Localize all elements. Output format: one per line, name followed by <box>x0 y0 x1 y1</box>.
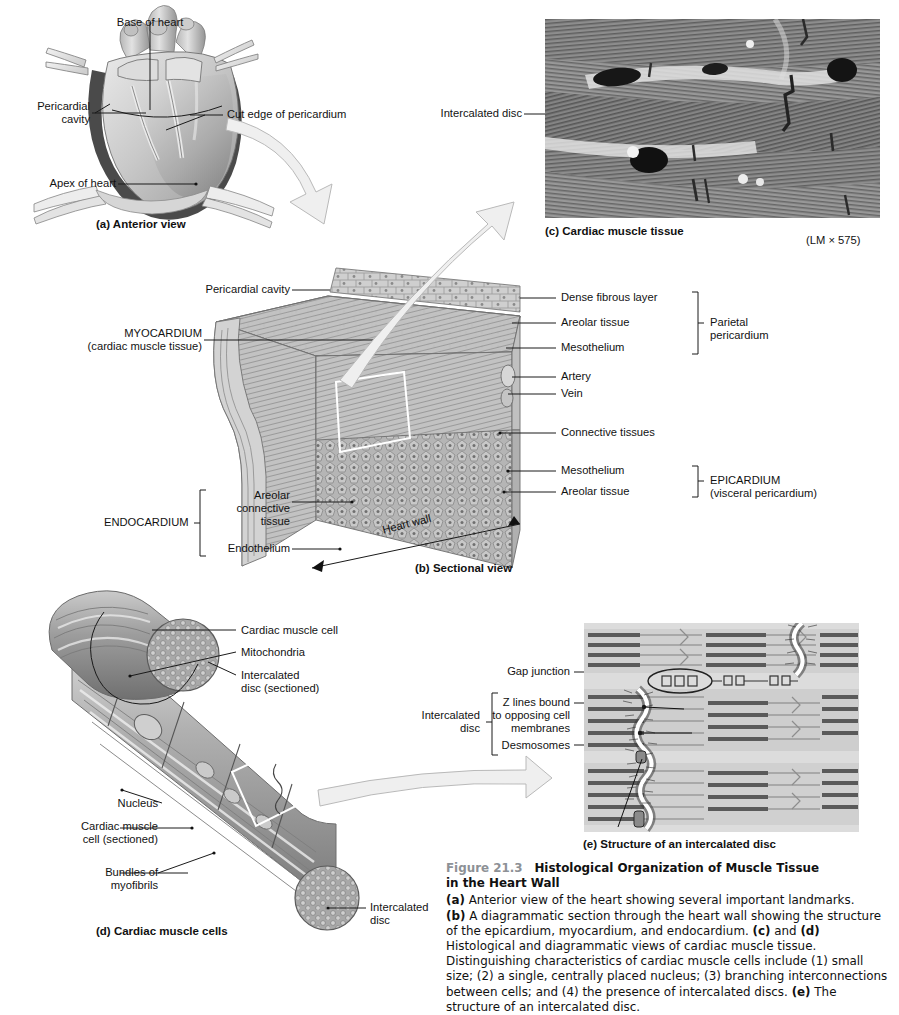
label-endocardium: ENDOCARDIUM <box>104 516 188 529</box>
label-parietal-pericardium: Parietal pericardium <box>710 316 768 342</box>
label-bundles-of-myofibrils: Bundles of myofibrils <box>18 866 158 892</box>
panel-c-magnification: (LM × 575) <box>806 234 860 247</box>
caption-heading: Figure 21.3 Histological Organization of… <box>446 861 892 891</box>
label-pericardial-cavity-a: Pericardial cavity <box>2 100 90 126</box>
caption-text-run: and <box>770 924 800 938</box>
label-areolar-tissue-parietal: Areolar tissue <box>561 316 629 329</box>
figure-caption: Figure 21.3 Histological Organization of… <box>446 861 892 1015</box>
figure-number: Figure 21.3 <box>446 861 523 875</box>
label-mitochondria: Mitochondria <box>241 646 305 659</box>
label-epicardium: EPICARDIUM <box>710 474 780 487</box>
caption-panel-letter: (c) <box>753 924 771 938</box>
caption-body: (a) Anterior view of the heart showing s… <box>446 893 892 1015</box>
cardiac-muscle-micrograph <box>545 19 880 218</box>
panel-c-title: (c) Cardiac muscle tissue <box>545 225 684 237</box>
label-cardiac-muscle-cell-sectioned: Cardiac muscle cell (sectioned) <box>8 820 158 846</box>
label-vein: Vein <box>561 387 583 400</box>
label-base-of-heart: Base of heart <box>84 16 216 29</box>
label-pericardial-cavity-b: Pericardial cavity <box>140 283 290 296</box>
label-mesothelium-parietal: Mesothelium <box>561 341 624 354</box>
label-desmosomes: Desmosomes <box>458 739 570 752</box>
pointer-arrow-d-to-e <box>318 756 552 806</box>
panel-d-title: (d) Cardiac muscle cells <box>96 925 228 937</box>
panel-e-title: (e) Structure of an intercalated disc <box>583 838 776 850</box>
caption-text-run: Anterior view of the heart showing sever… <box>465 893 855 907</box>
label-areolar-connective-tissue: Areolar connective tissue <box>208 489 290 528</box>
label-myocardium-sub: (cardiac muscle tissue) <box>56 340 202 353</box>
panel-b-title: (b) Sectional view <box>415 562 512 574</box>
label-dense-fibrous-layer: Dense fibrous layer <box>561 291 657 304</box>
label-intercalated-disc-c: Intercalated disc <box>404 107 522 120</box>
label-mesothelium-visceral: Mesothelium <box>561 464 624 477</box>
caption-panel-letter: (b) <box>446 909 465 923</box>
label-nucleus: Nucleus <box>38 797 158 810</box>
label-cardiac-muscle-cell: Cardiac muscle cell <box>241 624 338 637</box>
label-endothelium: Endothelium <box>208 542 290 555</box>
figure-title-line2: in the Heart Wall <box>446 876 560 890</box>
label-areolar-tissue-visceral: Areolar tissue <box>561 485 629 498</box>
label-intercalated-disc-sectioned: Intercalated disc (sectioned) <box>241 669 319 695</box>
label-myocardium: MYOCARDIUM <box>74 327 202 340</box>
panel-a-title: (a) Anterior view <box>96 218 226 230</box>
label-intercalated-disc-e: Intercalated disc <box>398 709 480 735</box>
pointer-arrow-a-to-c <box>226 118 332 224</box>
label-apex-of-heart: Apex of heart <box>2 177 116 190</box>
figure-title-line1: Histological Organization of Muscle Tiss… <box>534 861 819 875</box>
label-connective-tissues: Connective tissues <box>561 426 655 439</box>
caption-panel-letter: (e) <box>792 985 811 999</box>
label-artery: Artery <box>561 370 591 383</box>
label-gap-junction: Gap junction <box>458 665 570 678</box>
caption-panel-letter: (a) <box>446 893 465 907</box>
label-intercalated-disc-d: Intercalated disc <box>370 901 428 927</box>
label-epicardium-sub: (visceral pericardium) <box>710 487 817 500</box>
caption-panel-letter: (d) <box>800 924 819 938</box>
intercalated-disc-diagram <box>584 623 859 832</box>
label-cut-edge-of-pericardium: Cut edge of pericardium <box>227 108 346 121</box>
